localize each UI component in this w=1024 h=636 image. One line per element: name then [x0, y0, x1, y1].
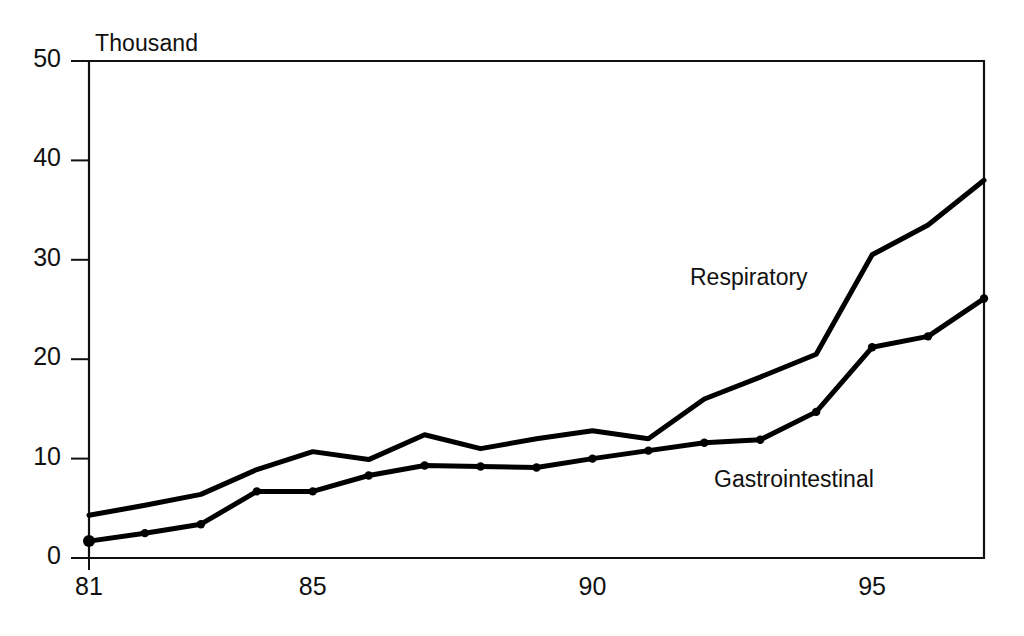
series-label-gastrointestinal: Gastrointestinal: [714, 466, 874, 493]
y-axis-tick-label: 50: [17, 44, 61, 73]
x-axis-tick-label: 95: [832, 572, 912, 601]
data-point-marker: [253, 487, 261, 495]
data-point-marker: [309, 487, 317, 495]
y-axis-tick-label: 20: [17, 342, 61, 371]
data-point-marker: [364, 471, 372, 479]
series-line-gastrointestinal: [89, 299, 984, 542]
y-axis-tick-label: 10: [17, 442, 61, 471]
data-point-marker: [700, 438, 708, 446]
x-axis-tick-label: 90: [552, 572, 632, 601]
data-point-marker: [644, 446, 652, 454]
series-markers: [83, 294, 988, 547]
y-axis-unit-label: Thousand: [95, 30, 198, 57]
data-point-marker: [141, 529, 149, 537]
data-point-marker: [197, 520, 205, 528]
data-point-marker: [532, 463, 540, 471]
series-label-respiratory: Respiratory: [690, 264, 808, 291]
line-chart: Thousand 01020304050 81859095 Respirator…: [0, 0, 1024, 636]
data-point-marker: [588, 454, 596, 462]
y-axis-ticks: [71, 61, 89, 558]
y-axis-tick-label: 40: [17, 143, 61, 172]
y-axis-tick-label: 30: [17, 243, 61, 272]
data-point-marker: [420, 461, 428, 469]
data-point-marker: [924, 332, 932, 340]
x-axis-tick-label: 81: [49, 572, 129, 601]
data-point-marker: [980, 294, 988, 302]
y-axis-tick-label: 0: [17, 541, 61, 570]
data-point-marker: [868, 343, 876, 351]
data-point-marker: [476, 462, 484, 470]
chart-canvas: [0, 0, 1024, 636]
data-point-marker: [756, 436, 764, 444]
x-axis-tick-label: 85: [273, 572, 353, 601]
data-point-marker: [812, 408, 820, 416]
data-point-marker: [83, 535, 95, 547]
